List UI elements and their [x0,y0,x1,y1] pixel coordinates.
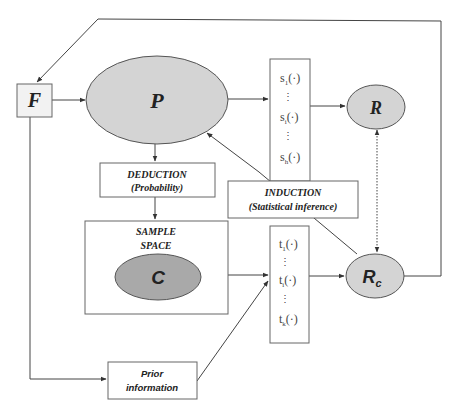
t-item-k: tk(·) [279,312,298,328]
s-ellipsis-1: ⋮ [283,91,293,102]
prior-line2: information [126,382,178,393]
node-f-label: F [27,89,42,111]
node-f[interactable]: F [17,84,52,117]
s-ellipsis-2: ⋮ [283,130,293,141]
s-item-h: sh(·) [280,150,300,166]
diagram-canvas: F P s1(·) ⋮ si(·) ⋮ sh(·) R DEDUCTION (P… [0,0,458,417]
t-ellipsis-2: ⋮ [280,293,290,304]
node-prior-information[interactable]: Prior information [108,362,197,399]
node-p[interactable]: P [86,56,228,144]
node-c[interactable]: C [115,254,201,300]
node-rc[interactable]: Rc [346,254,404,298]
node-r[interactable]: R [347,85,405,129]
deduction-title: DEDUCTION [126,169,187,180]
sample-space-line1: SAMPLE [136,226,176,237]
t-item-i: ti(·) [279,273,296,289]
induction-subtitle: (Statistical inference) [249,201,338,213]
node-induction[interactable]: INDUCTION (Statistical inference) [228,181,358,218]
t-ellipsis-1: ⋮ [280,256,290,267]
t-item-1: t1(·) [279,237,298,253]
induction-title: INDUCTION [264,187,322,198]
node-s-statistics[interactable]: s1(·) ⋮ si(·) ⋮ sh(·) [270,59,310,181]
s-item-1: s1(·) [280,71,300,87]
diagram-svg: F P s1(·) ⋮ si(·) ⋮ sh(·) R DEDUCTION (P… [0,0,458,417]
node-r-label: R [369,98,382,118]
node-t-statistics[interactable]: t1(·) ⋮ ti(·) ⋮ tk(·) [270,226,309,343]
node-p-label: P [149,88,164,113]
prior-line1: Prior [141,368,164,379]
s-item-i: si(·) [280,110,299,126]
deduction-subtitle: (Probability) [131,182,183,194]
node-c-label: C [151,267,165,288]
sample-space-line2: SPACE [141,240,172,251]
node-deduction[interactable]: DEDUCTION (Probability) [100,163,215,197]
